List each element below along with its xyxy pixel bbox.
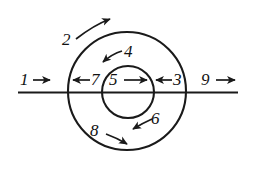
label-7: 7	[91, 71, 100, 88]
label-5: 5	[109, 71, 118, 88]
label-1: 1	[20, 71, 29, 88]
label-8: 8	[90, 122, 99, 139]
diagram-canvas: 1 2 4 7 5 3 9 6 8	[0, 0, 253, 180]
arrow-4-inward-down-left	[103, 51, 122, 62]
arrow-8-outward-right-down	[106, 134, 127, 144]
label-6: 6	[151, 110, 160, 127]
label-3: 3	[173, 71, 182, 88]
label-9: 9	[201, 71, 210, 88]
label-2: 2	[62, 31, 71, 48]
arrow-6-inward-down-left	[133, 119, 152, 129]
label-4: 4	[124, 43, 133, 60]
diagram-vector-layer	[0, 0, 253, 180]
